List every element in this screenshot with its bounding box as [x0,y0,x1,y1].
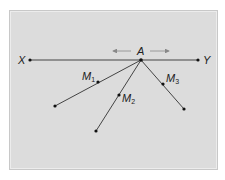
geometry-diagram: X Y A M1 M2 M3 [0,0,225,180]
point-a [139,58,143,62]
point-m3 [161,82,164,85]
endpoint-3 [182,107,185,110]
endpoint-2 [94,129,97,132]
label-x: X [17,54,26,66]
point-m2 [117,93,120,96]
label-y: Y [203,54,211,66]
label-m2: M2 [122,92,135,105]
point-m1 [96,80,99,83]
label-m1: M1 [82,70,95,83]
point-y [196,58,199,61]
point-x [28,58,31,61]
endpoint-1 [53,104,56,107]
label-a: A [136,45,144,57]
label-m3: M3 [166,72,179,85]
